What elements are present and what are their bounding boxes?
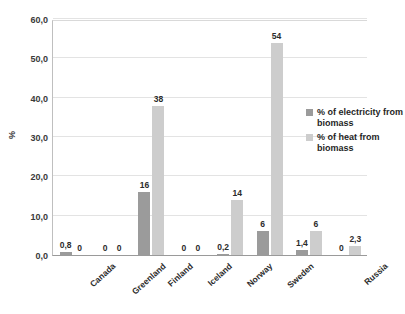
bar-group: 0,214	[215, 21, 245, 255]
x-axis-tick-label: Finland	[166, 261, 195, 289]
bar[interactable]	[217, 254, 229, 255]
bar[interactable]	[296, 250, 308, 256]
legend-item-label: % of electricity from biomass	[317, 107, 405, 129]
legend-item-label: % of heat from biomass	[317, 132, 405, 154]
bar-group: 00	[97, 21, 127, 255]
bar-value-label: 14	[225, 189, 249, 198]
legend-swatch-icon	[306, 109, 313, 116]
bar-group: 0,80	[58, 21, 88, 255]
x-axis-tick-label: Sweden	[285, 261, 316, 290]
y-axis-tick-label: 60,0	[14, 15, 48, 25]
bar[interactable]	[257, 231, 269, 255]
legend-item[interactable]: % of heat from biomass	[306, 132, 405, 154]
x-axis-tick-labels: CanadaGreenlandFinlandIcelandNorwaySwede…	[52, 257, 367, 314]
bar-group: 1638	[136, 21, 166, 255]
bar-value-label: 6	[304, 220, 328, 229]
y-axis-tick-label: 20,0	[14, 172, 48, 182]
y-axis-tick-label: 30,0	[14, 133, 48, 143]
bar-value-label: 54	[265, 32, 289, 41]
y-axis-tick-label: 10,0	[14, 212, 48, 222]
y-axis-tick-label: 50,0	[14, 54, 48, 64]
y-axis-tick-labels: 60,050,040,030,020,010,00,0	[12, 0, 48, 314]
bar[interactable]	[138, 192, 150, 255]
y-axis-tick-label: 0,0	[14, 251, 48, 261]
bar-value-label: 38	[146, 95, 170, 104]
bar-value-label: 0	[107, 244, 131, 253]
x-axis-tick-label: Canada	[88, 261, 118, 289]
bar-group: 00	[176, 21, 206, 255]
bar[interactable]	[271, 43, 283, 255]
bar-chart: % 60,050,040,030,020,010,00,0 0,80001638…	[0, 0, 405, 314]
bar-value-label: 0	[186, 244, 210, 253]
x-axis-tick-label: Iceland	[205, 261, 233, 288]
legend-swatch-icon	[306, 134, 313, 141]
bar[interactable]	[231, 200, 243, 255]
chart-legend: % of electricity from biomass% of heat f…	[306, 107, 405, 157]
bar[interactable]	[152, 106, 164, 255]
bar-value-label: 0	[68, 244, 92, 253]
bar[interactable]	[349, 246, 361, 255]
x-axis-tick-label: Norway	[245, 261, 275, 289]
bar-value-label: 2,3	[343, 235, 367, 244]
x-axis-tick-label: Greenland	[130, 261, 168, 297]
x-axis-tick-label: Russia	[362, 261, 389, 287]
bar[interactable]	[310, 231, 322, 255]
bar-group: 654	[255, 21, 285, 255]
gridline	[53, 18, 367, 19]
legend-item[interactable]: % of electricity from biomass	[306, 107, 405, 129]
y-axis-tick-label: 40,0	[14, 94, 48, 104]
